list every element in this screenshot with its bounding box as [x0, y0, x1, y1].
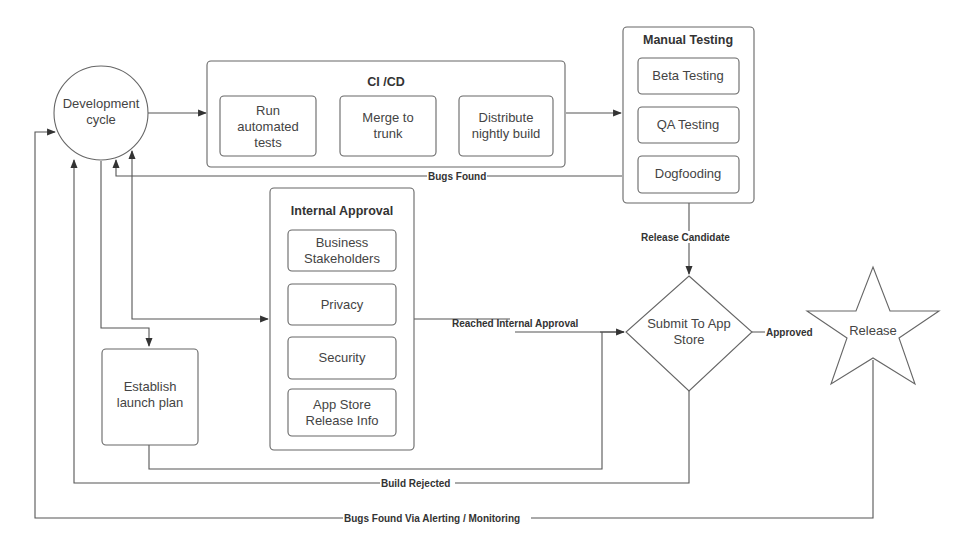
step-text: Merge to — [362, 110, 413, 125]
label-bugs-found-monitoring: Bugs Found Via Alerting / Monitoring — [344, 513, 520, 524]
release-label: Release — [849, 323, 897, 338]
manual-testing-title: Manual Testing — [643, 33, 733, 47]
launch-plan-line1: Establish — [124, 379, 177, 394]
approval-step-business-stakeholders[interactable]: Business Stakeholders — [288, 230, 396, 271]
dev-cycle-line1: Development — [63, 96, 140, 111]
label-reached-internal-approval: Reached Internal Approval — [452, 318, 579, 329]
node-development-cycle[interactable]: Development cycle — [54, 66, 148, 160]
label-release-candidate: Release Candidate — [641, 232, 730, 243]
node-establish-launch-plan[interactable]: Establish launch plan — [102, 349, 198, 445]
step-text: Stakeholders — [304, 251, 380, 266]
step-text: Distribute — [479, 110, 534, 125]
launch-plan-line2: launch plan — [117, 395, 184, 410]
flow-diagram: Development cycle CI /CD Run automated t… — [0, 0, 966, 553]
step-text: automated — [237, 119, 298, 134]
node-submit-to-app-store[interactable]: Submit To App Store — [626, 276, 752, 391]
approval-step-security[interactable]: Security — [288, 337, 396, 379]
step-text: Dogfooding — [655, 166, 722, 181]
step-text: Run — [256, 103, 280, 118]
approval-step-privacy[interactable]: Privacy — [288, 284, 396, 325]
step-text: Beta Testing — [652, 68, 723, 83]
step-text: QA Testing — [657, 117, 720, 132]
label-approved: Approved — [766, 327, 813, 338]
cicd-step-merge-trunk[interactable]: Merge to trunk — [340, 96, 436, 156]
manual-step-dogfooding[interactable]: Dogfooding — [638, 156, 739, 193]
dev-cycle-line2: cycle — [86, 112, 116, 127]
cicd-step-run-tests[interactable]: Run automated tests — [220, 96, 316, 156]
internal-approval-title: Internal Approval — [291, 204, 393, 218]
cicd-step-distribute-nightly[interactable]: Distribute nightly build — [459, 96, 553, 156]
edge-dev-to-launch-plan — [101, 161, 149, 346]
submit-line2: Store — [673, 332, 704, 347]
label-bugs-found: Bugs Found — [428, 171, 486, 182]
step-text: nightly build — [472, 126, 541, 141]
manual-step-beta-testing[interactable]: Beta Testing — [638, 58, 739, 94]
step-text: Privacy — [321, 297, 364, 312]
cicd-title: CI /CD — [367, 75, 405, 89]
step-text: App Store — [313, 397, 371, 412]
approval-step-app-store-release-info[interactable]: App Store Release Info — [288, 389, 396, 436]
node-cicd-group[interactable]: CI /CD Run automated tests Merge to trun… — [207, 61, 565, 167]
label-build-rejected: Build Rejected — [381, 478, 450, 489]
step-text: Security — [319, 350, 366, 365]
step-text: trunk — [374, 126, 403, 141]
node-internal-approval-group[interactable]: Internal Approval Business Stakeholders … — [270, 188, 414, 450]
submit-line1: Submit To App — [647, 316, 731, 331]
manual-step-qa-testing[interactable]: QA Testing — [638, 107, 739, 143]
step-text: tests — [254, 135, 282, 150]
step-text: Business — [316, 235, 369, 250]
node-manual-testing-group[interactable]: Manual Testing Beta Testing QA Testing D… — [623, 27, 754, 203]
step-text: Release Info — [306, 413, 379, 428]
